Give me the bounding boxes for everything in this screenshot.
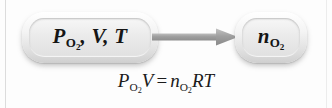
node-output-label: nO2 [258,24,285,52]
equation-rhs-subscript: O2 [180,81,192,93]
node-output-subscript: O2 [270,35,285,50]
node-inputs-label: PO2, V, T [53,24,128,52]
arrow-icon [152,26,238,48]
diagram-canvas: PO2, V, T nO2 PO2V=nO2 [0,0,332,108]
node-inputs-tail: , V, T [80,24,127,48]
equation-lhs-tail: V [142,70,154,91]
flow-arrow [152,26,238,48]
equation-lhs-base: P [118,70,130,91]
node-inputs: PO2, V, T [22,12,158,63]
equation-operator: = [153,70,170,91]
node-output-base: n [258,24,270,48]
equation-lhs-subscript: O2 [129,81,141,93]
node-inputs-base: P [53,24,66,48]
node-output: nO2 [235,12,307,63]
equation-rhs-base: n [170,70,180,91]
equation-rhs-tail: RT [192,70,214,91]
node-inputs-subscript: O2 [66,35,81,50]
ideal-gas-law-equation: PO2V=nO2RT [0,70,332,95]
